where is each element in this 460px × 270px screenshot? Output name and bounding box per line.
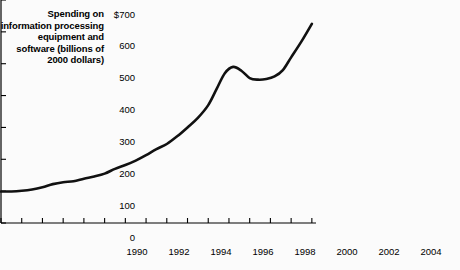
y-axis-tick-label-0: 0 [105,233,135,243]
x-axis-tick-label-2000: 2000 [327,247,367,257]
chart-container: Spending on information processing equip… [0,0,460,270]
x-axis-tick-label-2004: 2004 [411,247,451,257]
x-axis-tick-label-1992: 1992 [159,247,199,257]
chart-plot [0,0,320,228]
y-axis-tick-marks [1,0,6,223]
x-axis-tick-label-1998: 1998 [285,247,325,257]
x-axis-tick-label-1990: 1990 [117,247,157,257]
data-series-line [1,24,312,192]
x-axis-tick-label-2002: 2002 [369,247,409,257]
axis-lines [1,0,316,223]
x-axis-tick-label-1996: 1996 [243,247,283,257]
x-axis-tick-marks [1,218,312,223]
x-axis-tick-label-1994: 1994 [201,247,241,257]
